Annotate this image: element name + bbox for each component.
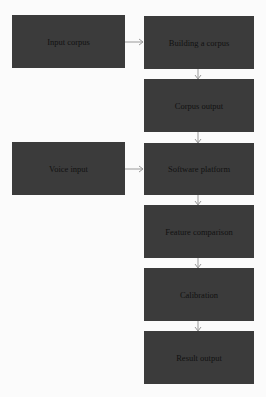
arrow-right-icon bbox=[125, 166, 143, 172]
arrow-down-icon bbox=[195, 321, 201, 331]
arrow-down-icon bbox=[195, 69, 201, 79]
arrow-right-icon bbox=[125, 39, 143, 45]
arrow-down-icon bbox=[195, 258, 201, 268]
arrow-down-icon bbox=[195, 132, 201, 143]
arrows bbox=[0, 0, 266, 397]
arrow-down-icon bbox=[195, 195, 201, 205]
